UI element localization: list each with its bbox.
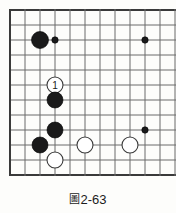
go-stone-black [47,92,63,108]
go-stone-black [142,37,148,43]
stone-disc [47,122,63,138]
go-board-grid: 1 [0,0,176,190]
stone-disc [47,92,63,108]
go-diagram-figure: 1 圖2-63 [0,0,176,213]
stone-disc [32,137,48,153]
go-stone-black [52,37,58,43]
stone-disc [122,137,138,153]
go-stone-black [32,137,48,153]
go-stone-white: 1 [47,77,63,93]
go-stone-black [142,127,148,133]
board-point-marker [142,127,148,133]
go-stone-white [77,137,93,153]
go-stone-white [122,137,138,153]
stone-move-number: 1 [52,80,58,91]
go-stone-black [47,122,63,138]
board-point-marker [52,37,58,43]
caption-label-glyph: 圖 [69,190,80,206]
figure-caption: 圖2-63 [0,191,176,207]
stone-disc [32,32,49,49]
stone-disc [47,152,63,168]
go-stone-white [47,152,63,168]
board-point-marker [142,37,148,43]
stone-disc [77,137,93,153]
go-board: 1 [0,0,176,190]
caption-number: 2-63 [80,192,106,207]
go-stone-black [32,32,49,49]
